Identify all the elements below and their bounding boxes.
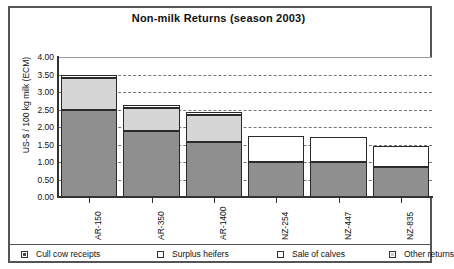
chart-title: Non-milk Returns (season 2003) <box>0 12 437 24</box>
legend-swatch-icon <box>277 251 284 258</box>
legend-item-label: Cull cow receipts <box>36 249 100 259</box>
bar-group <box>373 57 429 197</box>
legend-swatch-icon <box>389 251 396 258</box>
figure-border-top <box>8 6 432 8</box>
y-axis-tick-label: 3.50 <box>14 70 54 80</box>
bar-segment <box>186 115 242 142</box>
y-axis-tick-label: 1.00 <box>14 157 54 167</box>
y-axis-tick-label: 0.00 <box>14 192 54 202</box>
x-axis-tick-mark <box>89 198 90 203</box>
x-axis-category-label: NZ-835 <box>405 180 415 240</box>
legend-divider <box>9 244 431 245</box>
bar-segment <box>248 136 304 162</box>
y-axis-tick-label: 0.50 <box>14 175 54 185</box>
legend-swatch-icon <box>21 251 28 258</box>
bar-segment <box>61 75 117 79</box>
y-axis-tick-labels: 0.000.501.001.502.002.503.003.504.00 <box>10 57 54 197</box>
x-axis-category-label: NZ-254 <box>280 180 290 240</box>
bar-segment <box>123 105 179 107</box>
y-axis-tick-label: 2.00 <box>14 122 54 132</box>
bar-group <box>61 57 117 197</box>
legend-item[interactable]: Surplus heifers <box>157 249 229 259</box>
y-axis-tick-label: 4.00 <box>14 52 54 62</box>
x-axis-tick-mark <box>214 198 215 203</box>
x-axis-tick-mark <box>152 198 153 203</box>
legend-item[interactable]: Sale of calves <box>277 249 345 259</box>
y-axis-line <box>57 56 59 198</box>
bar-segment <box>123 131 179 198</box>
bar-segment <box>186 142 242 197</box>
x-axis-category-label: AR-1400 <box>218 180 228 240</box>
bar-group <box>310 57 366 197</box>
legend-item-label: Other returns <box>404 249 454 259</box>
bar-segment <box>248 162 304 197</box>
bar-segment <box>310 162 366 197</box>
y-axis-tick-label: 1.50 <box>14 140 54 150</box>
bar-group <box>248 57 304 197</box>
bar-segment <box>310 137 366 162</box>
bar-segment <box>373 146 429 167</box>
legend-item-label: Sale of calves <box>292 249 345 259</box>
legend-item[interactable]: Cull cow receipts <box>21 249 100 259</box>
y-axis-tick-label: 2.50 <box>14 105 54 115</box>
bar-group <box>186 57 242 197</box>
legend-item[interactable]: Other returns <box>389 249 454 259</box>
legend-item-label: Surplus heifers <box>172 249 229 259</box>
legend-swatch-icon <box>157 251 164 258</box>
bar-segment <box>186 112 242 114</box>
x-axis-category-label: NZ-447 <box>343 180 353 240</box>
x-axis-tick-mark <box>339 198 340 203</box>
bar-segment <box>123 108 179 131</box>
bar-group <box>123 57 179 197</box>
plot-area <box>58 57 432 197</box>
chart-legend: Cull cow receiptsSurplus heifersSale of … <box>9 246 431 262</box>
x-axis-tick-mark <box>401 198 402 203</box>
x-axis-tick-mark <box>276 198 277 203</box>
y-axis-tick-label: 3.00 <box>14 87 54 97</box>
x-axis-line <box>57 196 433 198</box>
x-axis-category-label: AR-350 <box>156 180 166 240</box>
x-axis-category-label: AR-150 <box>93 180 103 240</box>
bar-segment <box>61 78 117 110</box>
bar-segment <box>373 167 429 197</box>
bar-segment <box>61 110 117 198</box>
